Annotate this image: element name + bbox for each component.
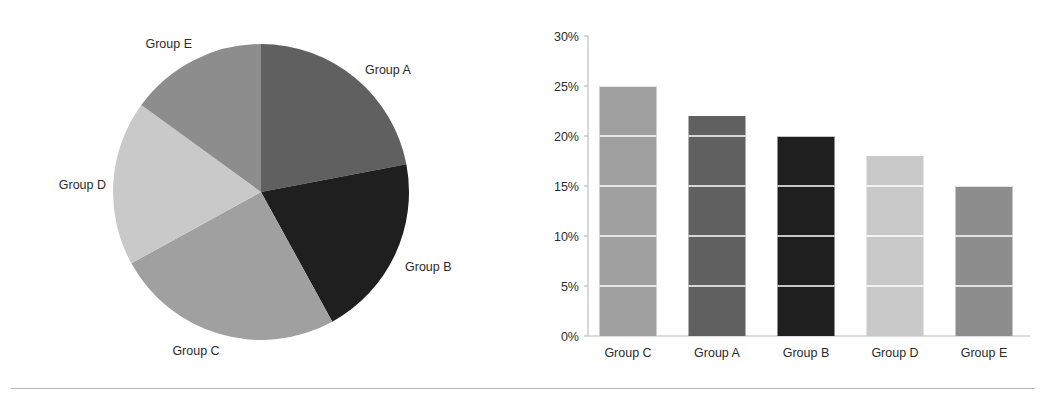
pie-label-group-a: Group A bbox=[365, 63, 412, 77]
bar-chart-svg: 0%5%10%15%20%25%30% Group CGroup AGroup … bbox=[500, 0, 1043, 380]
x-label-group-d: Group D bbox=[871, 346, 918, 360]
x-label-group-e: Group E bbox=[961, 346, 1008, 360]
bar-group bbox=[600, 86, 1013, 336]
pie-chart-svg: Group AGroup BGroup CGroup DGroup E bbox=[0, 0, 500, 380]
y-tick-label-20%: 20% bbox=[554, 130, 579, 144]
pie-label-group-e: Group E bbox=[145, 37, 192, 51]
x-label-group-a: Group A bbox=[694, 346, 741, 360]
y-tick-label-5%: 5% bbox=[561, 280, 579, 294]
footer-divider-rule bbox=[11, 388, 1035, 389]
pie-label-group-d: Group D bbox=[59, 178, 106, 192]
figure-root: Group AGroup BGroup CGroup DGroup E 0%5%… bbox=[0, 0, 1043, 402]
bar-group-c[interactable] bbox=[600, 86, 657, 336]
pie-chart-panel: Group AGroup BGroup CGroup DGroup E bbox=[0, 0, 500, 380]
pie-label-group-c: Group C bbox=[172, 344, 219, 358]
x-label-group-c: Group C bbox=[604, 346, 651, 360]
bar-group-a[interactable] bbox=[689, 116, 746, 336]
bar-group-d[interactable] bbox=[867, 156, 924, 336]
y-tick-label-10%: 10% bbox=[554, 230, 579, 244]
pie-slice-group bbox=[113, 44, 409, 340]
y-tick-label-25%: 25% bbox=[554, 80, 579, 94]
pie-label-group-b: Group B bbox=[405, 260, 452, 274]
bar-chart-panel: 0%5%10%15%20%25%30% Group CGroup AGroup … bbox=[500, 0, 1043, 380]
x-axis-labels: Group CGroup AGroup BGroup DGroup E bbox=[604, 346, 1007, 360]
y-tick-label-0%: 0% bbox=[561, 330, 579, 344]
y-tick-label-15%: 15% bbox=[554, 180, 579, 194]
bar-group-e[interactable] bbox=[956, 186, 1013, 336]
y-tick-label-30%: 30% bbox=[554, 30, 579, 44]
x-label-group-b: Group B bbox=[783, 346, 830, 360]
